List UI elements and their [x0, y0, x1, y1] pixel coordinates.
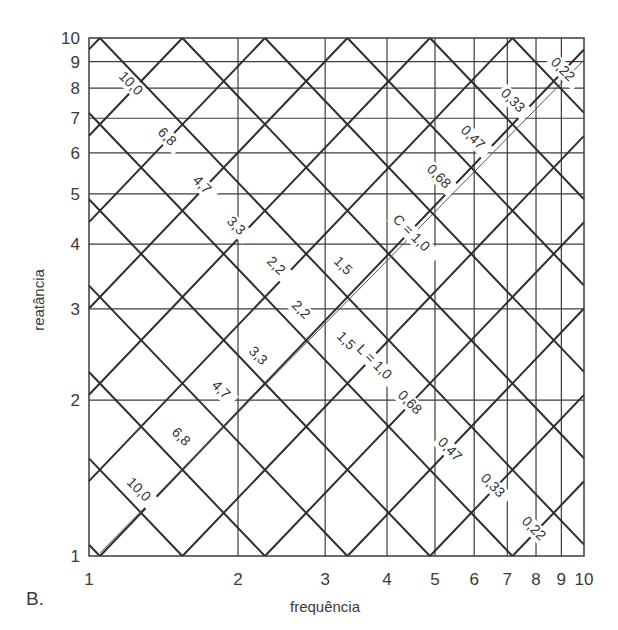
y-axis-label: reatância — [30, 268, 47, 330]
x-axis-ticks: 12345678910 — [84, 570, 593, 589]
y-tick-label: 4 — [71, 235, 80, 254]
line-value-label: 6,8 — [166, 422, 199, 455]
x-tick-label: 7 — [503, 570, 512, 589]
line-value-label: 2,2 — [261, 251, 294, 284]
y-tick-label: 5 — [71, 185, 80, 204]
reactance-lines — [89, 38, 584, 556]
line-value-label: 1,5 — [328, 251, 361, 284]
x-tick-label: 8 — [531, 570, 540, 589]
y-tick-label: 1 — [71, 547, 80, 566]
plot-frame — [89, 38, 584, 556]
x-tick-label: 5 — [430, 570, 439, 589]
reactance-frequency-chart: 10,06,84,73,32,21,5C = 1,00,680,470,330,… — [0, 0, 618, 630]
line-value-label: 3,3 — [243, 341, 276, 374]
svg-text:L = 1,0: L = 1,0 — [354, 341, 396, 383]
panel-label: B. — [26, 588, 44, 609]
y-tick-label: 2 — [71, 391, 80, 410]
y-tick-label: 9 — [71, 53, 80, 72]
line-value-label: 10,0 — [121, 472, 160, 511]
y-tick-label: 6 — [71, 144, 80, 163]
y-axis-ticks: 12345678910 — [61, 29, 80, 566]
line-value-label: 0,47 — [432, 432, 471, 471]
y-tick-label: 3 — [71, 300, 80, 319]
x-tick-label: 10 — [575, 570, 594, 589]
x-tick-label: 4 — [382, 570, 391, 589]
svg-text:C = 1,0: C = 1,0 — [390, 211, 434, 255]
x-axis-label: frequência — [290, 598, 361, 615]
line-value-label: 4,7 — [187, 170, 220, 203]
y-tick-label: 8 — [71, 79, 80, 98]
x-tick-label: 6 — [469, 570, 478, 589]
y-tick-label: 10 — [61, 29, 80, 48]
x-tick-label: 9 — [557, 570, 566, 589]
line-value-label: L = 1,0 — [351, 339, 407, 395]
x-tick-label: 1 — [84, 570, 93, 589]
x-tick-label: 2 — [233, 570, 242, 589]
y-tick-label: 7 — [71, 109, 80, 128]
line-value-label: 4,7 — [206, 375, 239, 408]
log-grid — [89, 38, 584, 556]
x-tick-label: 3 — [320, 570, 329, 589]
